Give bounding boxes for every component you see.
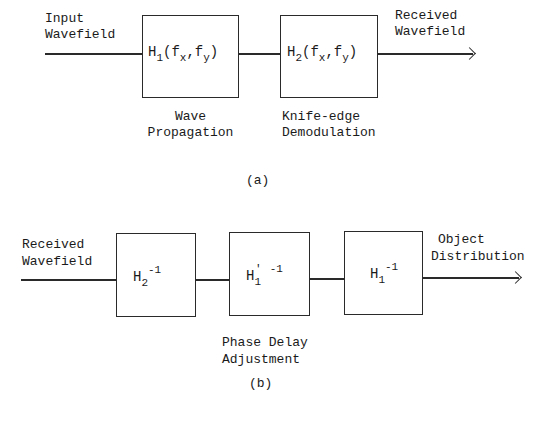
object-distribution-label-line1: Object (438, 233, 485, 247)
transfer-function-h2: H2(fx,fy) (287, 44, 357, 64)
block-h1-prime-inverse: H1'-1 (229, 232, 310, 316)
received-wavefield-label-line1: Received (395, 9, 457, 23)
input-signal-line-b (21, 279, 117, 281)
wave-propagation-label-line1: Wave (142, 110, 239, 124)
input-wavefield-label-line2: Wavefield (45, 28, 115, 42)
input-wavefield-label-line1: Input (45, 12, 84, 26)
tf-sub-y: y (203, 52, 210, 64)
arrow-head-icon (509, 271, 522, 284)
output-signal-line (378, 53, 473, 55)
caption-b: (b) (249, 376, 272, 391)
connector-h1-h2 (239, 53, 280, 55)
tf-arg-fy: ,f (186, 44, 203, 60)
tf-arg-fx: (f (302, 44, 319, 60)
received-wavefield-input-label-line1: Received (22, 238, 84, 252)
tf-superscript: -1 (385, 261, 398, 273)
block-h1-wave-propagation: H1(fx,fy) (142, 15, 239, 98)
transfer-function-h1-prime-inverse: H1'-1 (246, 263, 283, 288)
phase-delay-label-line1: Phase Delay (222, 336, 308, 350)
object-distribution-label-line2: Distribution (431, 250, 525, 264)
arrow-head-icon (463, 47, 476, 60)
knife-edge-label-line1: Knife-edge (282, 110, 360, 124)
connector-b2-b3 (310, 278, 345, 280)
caption-a: (a) (246, 173, 269, 188)
wave-propagation-label-line2: Propagation (132, 126, 249, 140)
block-h2-inverse: H2-1 (116, 233, 196, 317)
tf-sub-y: y (342, 52, 349, 64)
tf-close: ) (210, 44, 218, 60)
block-h1-inverse: H1-1 (344, 231, 423, 315)
transfer-function-h2-inverse: H2-1 (133, 264, 161, 289)
input-signal-line (45, 53, 142, 55)
block-h2-knife-edge: H2(fx,fy) (280, 15, 378, 98)
received-wavefield-label-line2: Wavefield (395, 25, 465, 39)
connector-b1-b2 (196, 279, 230, 281)
tf-arg-fy: ,f (325, 44, 342, 60)
knife-edge-label-line2: Demodulation (282, 126, 376, 140)
tf-arg-fx: (f (163, 44, 180, 60)
tf-subscript: 1 (378, 274, 385, 286)
phase-delay-label-line2: Adjustment (222, 353, 300, 367)
output-signal-line-b (423, 277, 519, 279)
tf-subscript: 1 (254, 276, 261, 288)
transfer-function-h1-inverse: H1-1 (370, 261, 398, 286)
tf-subscript: 2 (141, 277, 148, 289)
received-wavefield-input-label-line2: Wavefield (22, 255, 92, 269)
tf-prime: ' (255, 263, 262, 275)
tf-close: ) (349, 44, 357, 60)
tf-superscript: -1 (270, 263, 283, 275)
transfer-function-h1: H1(fx,fy) (148, 44, 218, 64)
tf-superscript: -1 (148, 264, 161, 276)
